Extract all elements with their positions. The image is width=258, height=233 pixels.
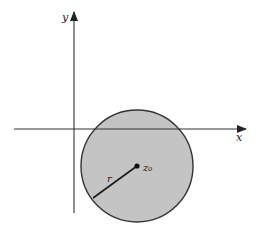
diagram-canvas: y x z₀ r [0, 0, 258, 233]
x-axis-label: x [236, 131, 243, 144]
center-point [134, 163, 139, 168]
y-axis-label: y [61, 11, 69, 24]
center-label: z₀ [142, 162, 152, 173]
